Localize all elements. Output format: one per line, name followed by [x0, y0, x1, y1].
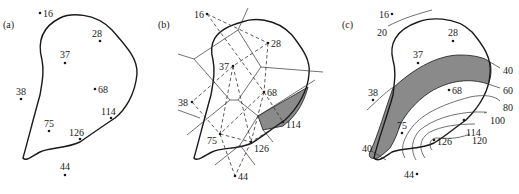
svg-text:44: 44: [404, 169, 414, 180]
svg-text:20: 20: [377, 27, 387, 38]
panel-label-b: (b): [158, 19, 170, 31]
svg-text:37: 37: [219, 61, 229, 72]
svg-text:80: 80: [503, 102, 513, 113]
svg-text:68: 68: [452, 85, 462, 96]
svg-text:126: 126: [437, 136, 452, 147]
svg-text:114: 114: [286, 119, 301, 130]
svg-text:68: 68: [98, 84, 108, 95]
svg-text:100: 100: [490, 115, 505, 126]
svg-text:114: 114: [101, 106, 116, 117]
sample-points-b: 16 28 37 38 68 114 75 126 44: [178, 9, 301, 182]
svg-text:40: 40: [362, 143, 372, 154]
svg-text:68: 68: [267, 87, 277, 98]
svg-text:16: 16: [379, 9, 389, 20]
svg-text:28: 28: [271, 38, 281, 49]
svg-text:38: 38: [368, 87, 378, 98]
svg-text:40: 40: [503, 65, 513, 76]
svg-text:44: 44: [60, 161, 70, 172]
panel-c: (c) 20 40 60 80 100 120 40 16 28: [342, 9, 513, 180]
panel-label-a: (a): [3, 19, 14, 31]
svg-text:38: 38: [16, 86, 26, 97]
svg-text:28: 28: [92, 28, 102, 39]
svg-text:114: 114: [466, 127, 481, 138]
svg-text:16: 16: [194, 9, 204, 20]
svg-text:44: 44: [238, 171, 248, 182]
svg-text:37: 37: [60, 49, 70, 60]
panel-a: (a) 16 28 37 38 68 114 75 126 44: [3, 8, 137, 176]
svg-text:60: 60: [503, 85, 513, 96]
svg-text:75: 75: [207, 135, 217, 146]
figure: (a) 16 28 37 38 68 114 75 126 44 (b): [0, 0, 519, 194]
panel-label-c: (c): [342, 19, 353, 31]
svg-text:28: 28: [448, 27, 458, 38]
svg-text:38: 38: [178, 97, 188, 108]
svg-text:75: 75: [397, 120, 407, 131]
sample-points-a: 16 28 37 38 68 114 75 126 44: [16, 8, 116, 176]
panel-b: (b): [158, 8, 323, 182]
svg-text:126: 126: [69, 127, 84, 138]
svg-text:16: 16: [43, 8, 53, 19]
svg-text:126: 126: [254, 143, 269, 154]
svg-text:75: 75: [44, 118, 54, 129]
svg-text:37: 37: [413, 49, 423, 60]
